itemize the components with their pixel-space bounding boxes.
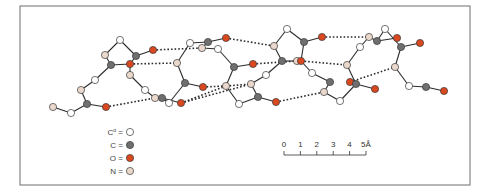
carbon-atom: [230, 63, 237, 70]
calpha-atom: [336, 97, 343, 104]
nitrogen-atom: [343, 61, 350, 68]
carbon-atom-legend-icon: [126, 141, 133, 148]
nitrogen-atom: [49, 103, 56, 110]
nitrogen-atom: [391, 63, 398, 70]
oxygen-atom: [149, 46, 156, 53]
hydrogen-bond: [301, 61, 347, 65]
legend: Cα =C =O =N =: [107, 127, 133, 176]
carbon-atom: [352, 80, 359, 87]
oxygen-atom: [440, 87, 447, 94]
nitrogen-atom: [126, 71, 133, 78]
hydrogen-bond: [350, 67, 395, 82]
carbon-atom: [373, 37, 380, 44]
scale-tick-label: 2: [315, 140, 320, 149]
nitrogen-atom: [173, 59, 180, 66]
calpha-atom: [186, 39, 193, 46]
calpha-atom: [405, 82, 412, 89]
oxygen-atom: [199, 83, 206, 90]
legend-label: N =: [110, 167, 123, 176]
oxygen-atom: [371, 85, 378, 92]
hydrogen-bond: [226, 38, 274, 46]
nitrogen-atom: [270, 42, 277, 49]
carbon-atom: [254, 93, 261, 100]
oxygen-atom: [318, 33, 325, 40]
nitrogen-atom: [77, 86, 84, 93]
carbon-atom: [397, 43, 404, 50]
scale-tick-label: 5Å: [361, 140, 371, 149]
hydrogen-bond: [181, 84, 251, 103]
calpha-atom: [141, 86, 148, 93]
scale-bar: 012345Å: [282, 140, 372, 155]
nitrogen-atom: [365, 33, 372, 40]
hydrogen-bond: [130, 63, 177, 64]
carbon-atom: [83, 100, 90, 107]
calpha-atom: [283, 25, 290, 32]
calpha-atom: [116, 36, 123, 43]
oxygen-atom: [416, 39, 423, 46]
alpha-helix-diagram: Cα =C =O =N = 012345Å: [0, 0, 485, 192]
nitrogen-atom: [247, 80, 254, 87]
nitrogen-atom: [222, 82, 229, 89]
nitrogen-atom-legend-icon: [126, 167, 133, 174]
calpha-atom: [262, 71, 269, 78]
hydrogen-bond: [276, 92, 324, 102]
carbon-atom: [422, 83, 429, 90]
oxygen-atom: [272, 98, 279, 105]
scale-tick-label: 1: [298, 140, 303, 149]
calpha-atom: [214, 45, 221, 52]
hydrogen-bond: [153, 48, 202, 50]
carbon-atom: [300, 38, 307, 45]
calpha-atom: [235, 100, 242, 107]
carbon-atom: [132, 52, 139, 59]
oxygen-atom: [249, 60, 256, 67]
scale-tick-label: 4: [347, 140, 352, 149]
carbon-atom: [158, 94, 165, 101]
calpha-atom-legend-icon: [126, 128, 133, 135]
oxygen-atom-legend-icon: [126, 154, 133, 161]
oxygen-atom: [126, 60, 133, 67]
oxygen-atom: [393, 34, 400, 41]
figure-frame: [20, 6, 470, 185]
calpha-atom: [165, 99, 172, 106]
oxygen-atom: [102, 103, 109, 110]
nitrogen-atom: [320, 88, 327, 95]
calpha-atom: [381, 25, 388, 32]
carbon-atom: [204, 38, 211, 45]
carbon-atom: [278, 57, 285, 64]
hydrogen-bond: [106, 98, 155, 107]
scale-tick-label: 0: [282, 140, 287, 149]
legend-label: C =: [110, 141, 123, 150]
calpha-atom: [67, 109, 74, 116]
carbon-atom: [326, 78, 333, 85]
oxygen-atom: [222, 34, 229, 41]
carbon-atom: [181, 79, 188, 86]
calpha-atom: [91, 76, 98, 83]
legend-label: Cα =: [107, 127, 123, 137]
scale-tick-label: 3: [331, 140, 336, 149]
legend-label: O =: [110, 154, 123, 163]
nitrogen-atom: [198, 44, 205, 51]
calpha-atom: [308, 69, 315, 76]
nitrogen-atom: [151, 94, 158, 101]
nitrogen-atom: [101, 51, 108, 58]
calpha-atom: [356, 43, 363, 50]
hydrogen-bonds: [106, 37, 395, 107]
carbon-atom: [107, 61, 114, 68]
oxygen-atom: [177, 99, 184, 106]
oxygen-atom: [297, 57, 304, 64]
